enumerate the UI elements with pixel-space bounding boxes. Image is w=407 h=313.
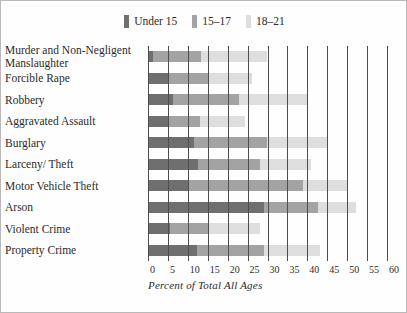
bar-segment <box>200 116 245 127</box>
bar-segment <box>260 159 312 170</box>
x-tick-label: 20 <box>230 264 240 276</box>
bar-segment <box>148 116 168 127</box>
bar-segment <box>209 73 252 84</box>
category-label: Forcible Rape <box>5 72 142 85</box>
bar-segment <box>201 51 268 62</box>
bar-segment <box>303 180 348 191</box>
x-axis-label: Percent of Total All Ages <box>148 279 262 291</box>
x-tick-label: 25 <box>250 264 260 276</box>
bar-segment <box>198 159 259 170</box>
stacked-bar <box>148 94 308 105</box>
stacked-bar <box>148 51 267 62</box>
legend-label: Under 15 <box>134 15 177 28</box>
category-label: Arson <box>5 201 142 214</box>
legend-label: 18–21 <box>256 15 285 28</box>
bar-segment <box>153 51 201 62</box>
bar-row <box>148 175 387 197</box>
bar-row <box>148 89 387 111</box>
bar-row <box>148 132 387 154</box>
chart-legend: Under 1515–1718–21 <box>1 15 407 28</box>
bar-row <box>148 197 387 219</box>
x-tick-label: 35 <box>289 264 299 276</box>
bar-segment <box>267 137 327 148</box>
stacked-bar <box>148 159 311 170</box>
bar-row <box>148 154 387 176</box>
bar-segment <box>168 116 200 127</box>
bar-row <box>148 240 387 262</box>
bar-segment <box>318 202 356 213</box>
stacked-bar <box>148 202 356 213</box>
x-tick-label: 30 <box>270 264 280 276</box>
category-label: Property Crime <box>5 244 142 257</box>
legend-swatch-icon <box>246 15 251 28</box>
bar-segment <box>209 223 261 234</box>
stacked-bar <box>148 116 245 127</box>
bar-segment <box>148 159 198 170</box>
bar-segment <box>264 245 321 256</box>
bar-segment <box>148 180 189 191</box>
bar-segment <box>148 94 173 105</box>
legend-swatch-icon <box>192 15 197 28</box>
stacked-bar <box>148 137 327 148</box>
gridline <box>387 46 388 261</box>
category-label: Violent Crime <box>5 223 142 236</box>
x-tick-label: 10 <box>190 264 200 276</box>
legend-entry: 15–17 <box>192 15 231 28</box>
bar-row <box>148 218 387 240</box>
legend-label: 15–17 <box>202 15 231 28</box>
bar-segment <box>148 245 197 256</box>
legend-entry: 18–21 <box>246 15 285 28</box>
category-label: Motor Vehicle Theft <box>5 180 142 193</box>
stacked-bar <box>148 180 348 191</box>
x-tick-label: 40 <box>309 264 319 276</box>
stacked-bar <box>148 245 320 256</box>
category-label: Larceny/ Theft <box>5 158 142 171</box>
legend-swatch-icon <box>124 15 129 28</box>
bar-row <box>148 68 387 90</box>
bar-segment <box>169 73 209 84</box>
plot-area <box>148 46 387 261</box>
bar-segment <box>170 223 209 234</box>
x-tick-label: 60 <box>389 264 399 276</box>
bar-row <box>148 46 387 68</box>
category-label: Robbery <box>5 94 142 107</box>
x-tick-label: 55 <box>369 264 379 276</box>
x-tick-label: 50 <box>349 264 359 276</box>
bar-segment <box>148 137 194 148</box>
bar-segment <box>148 73 169 84</box>
x-axis-tick-labels: 051015202530354045505560 <box>148 264 398 278</box>
category-axis-labels: Murder and Non-Negligent ManslaughterFor… <box>5 46 146 261</box>
bar-segment <box>264 202 318 213</box>
category-label: Murder and Non-Negligent Manslaughter <box>5 44 142 69</box>
x-tick-label: 5 <box>170 264 175 276</box>
x-tick-label: 45 <box>329 264 339 276</box>
stacked-bar <box>148 73 252 84</box>
bar-segment <box>239 94 308 105</box>
bar-segment <box>148 202 264 213</box>
bar-segment <box>173 94 239 105</box>
category-label: Aggravated Assault <box>5 115 142 128</box>
category-label: Burglary <box>5 137 142 150</box>
legend-entry: Under 15 <box>124 15 177 28</box>
chart-figure: Under 1515–1718–21 Murder and Non-Neglig… <box>0 0 407 313</box>
bar-segment <box>197 245 264 256</box>
stacked-bar <box>148 223 260 234</box>
bar-rows <box>148 46 387 261</box>
x-tick-label: 15 <box>210 264 220 276</box>
x-tick-label: 0 <box>150 264 155 276</box>
bar-segment <box>189 180 303 191</box>
bar-segment <box>194 137 267 148</box>
bar-row <box>148 111 387 133</box>
bar-segment <box>148 223 170 234</box>
